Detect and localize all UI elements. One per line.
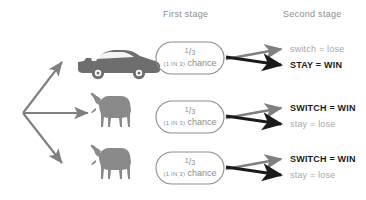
car-icon xyxy=(78,50,160,79)
fraction-denominator-2: 3 xyxy=(191,108,195,115)
outcome-arrow-2-stay xyxy=(226,116,281,124)
header-first-stage: First stage xyxy=(163,9,208,19)
outcome-2-stay: stay = lose xyxy=(290,119,335,129)
header-second-stage: Second stage xyxy=(283,9,342,19)
oval-label-2: 1/3 (1 IN 3) chance xyxy=(152,105,228,129)
fraction-denominator-3: 3 xyxy=(191,159,195,166)
fan-arrow-to-goat-2 xyxy=(23,113,62,163)
chance-word-1: chance xyxy=(187,58,216,68)
monty-hall-diagram: First stage Second stage 1/3 (1 IN 3) ch… xyxy=(0,0,366,200)
goat-icon-1 xyxy=(91,93,131,127)
chance-line-3: (1 IN 3) chance xyxy=(152,168,228,180)
outcome-2-switch: SWITCH = WIN xyxy=(290,103,356,113)
outcome-1-switch: switch = lose xyxy=(290,44,344,54)
oval-label-3: 1/3 (1 IN 3) chance xyxy=(152,156,228,180)
outcome-arrow-1-stay xyxy=(226,57,281,65)
fraction-3: 1/3 xyxy=(152,156,228,168)
fan-arrow-to-car xyxy=(23,62,62,113)
chance-paren-2: (1 IN 3) xyxy=(163,120,185,126)
chance-word-3: chance xyxy=(187,168,216,178)
chance-word-2: chance xyxy=(187,117,216,127)
goat-icon-2 xyxy=(91,145,131,179)
outcome-arrow-3-stay xyxy=(226,167,281,175)
chance-line-1: (1 IN 3) chance xyxy=(152,58,228,70)
chance-line-2: (1 IN 3) chance xyxy=(152,117,228,129)
chance-paren-1: (1 IN 3) xyxy=(163,61,185,67)
oval-label-1: 1/3 (1 IN 3) chance xyxy=(152,46,228,70)
fraction-2: 1/3 xyxy=(152,105,228,117)
fraction-1: 1/3 xyxy=(152,46,228,58)
chance-paren-3: (1 IN 3) xyxy=(163,171,185,177)
outcome-3-switch: SWITCH = WIN xyxy=(290,154,356,164)
outcome-3-stay: stay = lose xyxy=(290,170,335,180)
outcome-1-stay: STAY = WIN xyxy=(290,60,342,70)
fraction-denominator-1: 3 xyxy=(191,49,195,56)
